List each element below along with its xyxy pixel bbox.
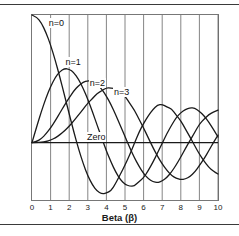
x-tick-7: 7 xyxy=(155,203,169,212)
curve-label-n=0: n=0 xyxy=(48,18,65,28)
x-tick-1: 1 xyxy=(44,203,58,212)
x-tick-0: 0 xyxy=(25,203,39,212)
zero-annotation: Zero xyxy=(86,132,107,142)
curve-label-n=2: n=2 xyxy=(89,78,106,88)
x-tick-9: 9 xyxy=(192,203,206,212)
bottom-divider-rule xyxy=(0,224,239,225)
x-tick-2: 2 xyxy=(62,203,76,212)
plot-svg xyxy=(31,14,219,201)
x-tick-4: 4 xyxy=(99,203,113,212)
x-tick-3: 3 xyxy=(81,203,95,212)
top-divider-rule xyxy=(0,4,239,5)
curve-label-n=1: n=1 xyxy=(65,57,82,67)
x-tick-5: 5 xyxy=(118,203,132,212)
x-axis-label: Beta (β) xyxy=(0,212,239,223)
x-tick-10: 10 xyxy=(211,203,225,212)
bessel-chart-figure: Amplitude Beta (β) 012345678910 n=0n=1n=… xyxy=(0,0,239,236)
x-tick-6: 6 xyxy=(137,203,151,212)
plot-area xyxy=(31,14,219,201)
x-tick-8: 8 xyxy=(174,203,188,212)
curve-label-n=3: n=3 xyxy=(113,87,130,97)
